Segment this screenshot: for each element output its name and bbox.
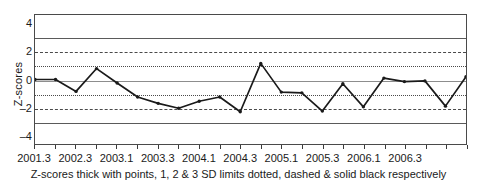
x-tick-mark xyxy=(220,145,221,149)
x-tick-mark xyxy=(426,145,427,149)
data-point xyxy=(362,105,365,108)
x-tick-mark xyxy=(75,145,76,149)
plot-area xyxy=(34,14,467,145)
data-point xyxy=(382,76,385,79)
data-point xyxy=(444,104,447,107)
x-tick-label: 2002.3 xyxy=(58,152,92,164)
data-point xyxy=(341,82,344,85)
plot-inner xyxy=(35,15,466,144)
y-tick-label: 2 xyxy=(10,46,32,57)
data-point xyxy=(177,107,180,110)
data-point xyxy=(95,67,98,70)
x-tick-label: 2003.1 xyxy=(100,152,134,164)
data-point xyxy=(74,90,77,93)
data-point xyxy=(403,80,406,83)
z-score-series xyxy=(35,15,466,144)
series-line xyxy=(35,63,466,111)
x-tick-label: 2004.1 xyxy=(182,152,216,164)
x-axis-tick-labels: 2001.32002.32003.12003.32004.12004.32005… xyxy=(0,152,477,166)
clipped-title xyxy=(0,0,477,6)
x-tick-mark xyxy=(261,145,262,149)
x-tick-label: 2003.3 xyxy=(141,152,175,164)
chart-caption: Z-scores thick with points, 1, 2 & 3 SD … xyxy=(0,168,477,180)
x-tick-mark xyxy=(55,145,56,149)
x-tick-mark xyxy=(199,145,200,149)
x-tick-mark xyxy=(178,145,179,149)
data-point xyxy=(423,79,426,82)
x-tick-mark xyxy=(323,145,324,149)
data-point xyxy=(35,78,37,81)
data-point xyxy=(136,95,139,98)
data-point xyxy=(300,91,303,94)
y-tick-label: –4 xyxy=(10,131,32,142)
x-tick-mark xyxy=(385,145,386,149)
data-point xyxy=(115,81,118,84)
x-tick-mark xyxy=(446,145,447,149)
data-point xyxy=(280,90,283,93)
x-tick-label: 2005.3 xyxy=(306,152,340,164)
x-tick-mark xyxy=(281,145,282,149)
x-tick-label: 2004.3 xyxy=(223,152,257,164)
data-point xyxy=(156,102,159,105)
x-tick-mark xyxy=(137,145,138,149)
x-tick-mark xyxy=(467,145,468,149)
x-tick-mark xyxy=(343,145,344,149)
x-tick-mark xyxy=(364,145,365,149)
x-tick-mark xyxy=(116,145,117,149)
y-tick-label: 0 xyxy=(10,74,32,85)
data-point xyxy=(321,109,324,112)
x-tick-label: 2005.1 xyxy=(265,152,299,164)
data-point xyxy=(54,78,57,81)
data-point xyxy=(218,95,221,98)
data-point xyxy=(239,110,242,113)
data-point xyxy=(197,100,200,103)
x-tick-label: 2006.1 xyxy=(347,152,381,164)
x-tick-label: 2001.3 xyxy=(17,152,51,164)
data-point xyxy=(259,62,262,65)
y-tick-label: –2 xyxy=(10,102,32,113)
x-tick-mark xyxy=(302,145,303,149)
x-tick-mark xyxy=(34,145,35,149)
x-tick-label: 2006.3 xyxy=(388,152,422,164)
x-tick-mark xyxy=(240,145,241,149)
z-score-control-chart: Z-scores 420–2–4 2001.32002.32003.12003.… xyxy=(0,0,477,186)
x-tick-mark xyxy=(405,145,406,149)
y-tick-label: 4 xyxy=(10,17,32,28)
x-tick-mark xyxy=(96,145,97,149)
x-tick-mark xyxy=(158,145,159,149)
